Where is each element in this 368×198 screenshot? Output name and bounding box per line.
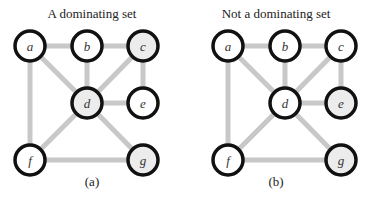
node-b: b [270,31,300,61]
node-label: e [338,96,344,111]
node-label: c [338,39,344,54]
node-e: e [326,88,356,118]
node-label: c [140,39,146,54]
node-label: d [282,96,289,111]
panel-a: A dominating set abcdefg (a) [0,0,184,198]
node-f: f [15,145,45,175]
node-g: g [128,145,158,175]
panel-b: Not a dominating set abcdefg (b) [184,0,368,198]
node-d: d [270,88,300,118]
node-a: a [213,31,243,61]
node-label: a [225,39,232,54]
node-b: b [72,31,102,61]
panel-caption: (a) [0,174,184,190]
node-label: b [84,39,91,54]
node-a: a [15,31,45,61]
node-c: c [326,31,356,61]
node-f: f [213,145,243,175]
node-label: e [140,96,146,111]
node-g: g [326,145,356,175]
graph-diagram: abcdefg [184,0,368,198]
node-e: e [128,88,158,118]
panel-caption: (b) [184,174,368,190]
node-label: a [27,39,34,54]
node-label: d [84,96,91,111]
node-d: d [72,88,102,118]
graph-diagram: abcdefg [0,0,184,198]
node-label: g [338,153,345,168]
node-label: b [282,39,289,54]
node-c: c [128,31,158,61]
node-label: g [140,153,147,168]
